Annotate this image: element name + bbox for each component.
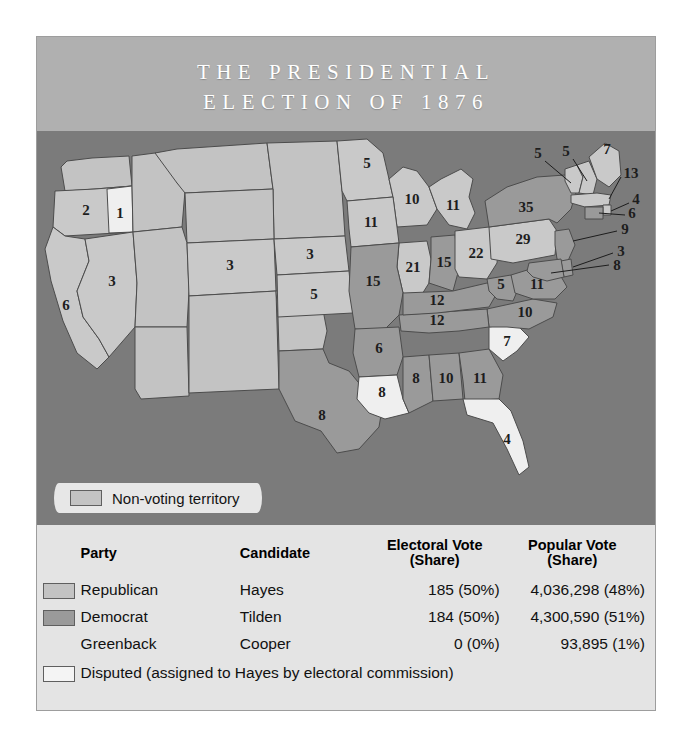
label-colorado: 3 xyxy=(226,257,234,273)
header-electoral-vote-sub: (Share) xyxy=(370,553,500,568)
label-new-jersey: 9 xyxy=(621,221,629,237)
label-florida: 4 xyxy=(503,431,511,447)
row-popular-vote: 4,036,298 (48%) xyxy=(500,576,655,603)
row-electoral-vote: 0 (0%) xyxy=(370,630,500,657)
row-party: Greenback xyxy=(81,630,240,657)
state-utah-territory xyxy=(133,227,189,327)
label-mississippi: 8 xyxy=(412,370,420,386)
label-vermont: 5 xyxy=(534,145,542,161)
header-party: Party xyxy=(81,525,240,576)
label-georgia: 11 xyxy=(473,370,487,386)
label-nevada: 3 xyxy=(108,273,116,289)
table-row: Democrat Tilden 184 (50%) 4,300,590 (51%… xyxy=(37,603,655,630)
label-maine: 7 xyxy=(603,141,611,157)
state-washington-territory xyxy=(61,156,132,191)
row-popular-vote: 4,300,590 (51%) xyxy=(500,603,655,630)
label-virginia: 11 xyxy=(530,276,544,292)
figure-container: THE PRESIDENTIAL ELECTION OF 1876 xyxy=(37,37,655,710)
header-popular-vote-sub: (Share) xyxy=(500,553,645,568)
header-candidate: Candidate xyxy=(240,525,370,576)
label-wisconsin: 10 xyxy=(405,191,420,207)
label-new-york: 35 xyxy=(519,199,534,215)
row-swatch-cell xyxy=(37,576,81,603)
label-massachusetts: 13 xyxy=(624,165,639,181)
disputed-note-row: Disputed (assigned to Hayes by electoral… xyxy=(37,657,655,687)
label-ohio: 22 xyxy=(469,245,484,261)
row-party: Democrat xyxy=(81,603,240,630)
republican-swatch xyxy=(43,583,75,599)
page-title-line-2: ELECTION OF 1876 xyxy=(37,90,655,115)
democrat-swatch xyxy=(43,610,75,626)
label-oregon-disputed: 1 xyxy=(116,205,124,221)
header-popular-vote-main: Popular Vote xyxy=(500,538,645,553)
label-tennessee: 12 xyxy=(430,312,445,328)
label-minnesota: 5 xyxy=(363,155,371,171)
table-row: Republican Hayes 185 (50%) 4,036,298 (48… xyxy=(37,576,655,603)
disputed-note-label: Disputed (assigned to Hayes by electoral… xyxy=(81,657,655,687)
label-kentucky: 12 xyxy=(430,292,445,308)
label-connecticut: 6 xyxy=(628,205,636,221)
leader-line-rhode-island xyxy=(611,203,629,211)
row-candidate: Hayes xyxy=(240,576,370,603)
figure-header: THE PRESIDENTIAL ELECTION OF 1876 xyxy=(37,37,655,131)
header-popular-vote: Popular Vote (Share) xyxy=(500,525,655,576)
state-dakota-territory xyxy=(267,141,345,239)
page-title-line-1: THE PRESIDENTIAL xyxy=(37,60,655,85)
non-voting-territory-swatch xyxy=(70,490,102,506)
table-header-row: Party Candidate Electoral Vote (Share) P… xyxy=(37,525,655,576)
state-arizona-territory xyxy=(135,327,189,399)
header-electoral-vote: Electoral Vote (Share) xyxy=(370,525,500,576)
row-swatch-cell xyxy=(37,630,81,657)
label-indiana: 15 xyxy=(437,254,452,270)
label-arkansas: 6 xyxy=(375,340,383,356)
label-west-virginia: 5 xyxy=(497,276,505,292)
leader-line-new-jersey xyxy=(573,231,617,241)
non-voting-territory-label: Non-voting territory xyxy=(112,490,240,507)
row-candidate: Tilden xyxy=(240,603,370,630)
disputed-swatch-cell xyxy=(37,657,81,687)
label-nebraska: 3 xyxy=(306,246,314,262)
label-california: 6 xyxy=(62,297,70,313)
row-party: Republican xyxy=(81,576,240,603)
label-maryland: 8 xyxy=(613,257,621,273)
label-south-carolina: 7 xyxy=(503,333,511,349)
state-new-jersey xyxy=(555,229,575,263)
label-iowa: 11 xyxy=(364,214,378,230)
label-north-carolina: 10 xyxy=(518,304,533,320)
election-map: 2 1 6 3 3 3 5 8 5 10 11 11 21 15 22 15 6… xyxy=(37,131,655,525)
row-electoral-vote: 185 (50%) xyxy=(370,576,500,603)
state-florida xyxy=(463,399,529,475)
label-missouri: 15 xyxy=(366,273,381,289)
results-table-panel: Party Candidate Electoral Vote (Share) P… xyxy=(37,525,655,710)
results-table: Party Candidate Electoral Vote (Share) P… xyxy=(37,525,655,687)
row-candidate: Cooper xyxy=(240,630,370,657)
row-swatch-cell xyxy=(37,603,81,630)
label-louisiana: 8 xyxy=(378,384,386,400)
label-texas: 8 xyxy=(318,407,326,423)
label-oregon-republican: 2 xyxy=(82,202,90,218)
disputed-swatch xyxy=(43,666,75,682)
us-map-svg: 2 1 6 3 3 3 5 8 5 10 11 11 21 15 22 15 6… xyxy=(37,131,655,525)
map-legend-non-voting-territory: Non-voting territory xyxy=(60,483,256,513)
label-illinois: 21 xyxy=(406,259,421,275)
header-swatch-spacer xyxy=(37,525,81,576)
state-new-mexico-territory xyxy=(189,291,279,393)
label-kansas: 5 xyxy=(310,286,318,302)
row-popular-vote: 93,895 (1%) xyxy=(500,630,655,657)
label-pennsylvania: 29 xyxy=(516,231,531,247)
header-electoral-vote-main: Electoral Vote xyxy=(370,538,500,553)
table-row: Greenback Cooper 0 (0%) 93,895 (1%) xyxy=(37,630,655,657)
row-electoral-vote: 184 (50%) xyxy=(370,603,500,630)
label-alabama: 10 xyxy=(439,370,454,386)
label-new-hampshire: 5 xyxy=(562,143,570,159)
state-wyoming-territory xyxy=(185,189,274,243)
label-michigan: 11 xyxy=(446,197,460,213)
